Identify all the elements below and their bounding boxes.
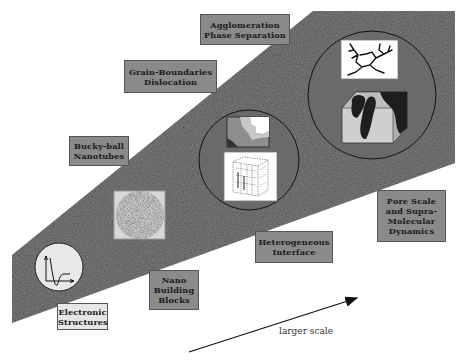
diagram-canvas: Agglomeration Phase Separation Grain-Bou…	[0, 0, 466, 364]
label-line: Dynamics	[378, 226, 445, 236]
label-line: Blocks	[150, 295, 198, 305]
label-line: Bucky-ball	[70, 141, 128, 151]
label-bucky-ball: Bucky-ball Nanotubes	[69, 136, 129, 166]
label-line: Agglomeration	[201, 20, 289, 30]
label-pore-scale: Pore Scale and Supra- Molecular Dynamics	[377, 190, 446, 242]
porous-cube-icon	[342, 92, 407, 143]
label-line: Interface	[256, 247, 332, 257]
label-line: Grain-Boundaries	[125, 67, 216, 77]
label-line: Phase Separation	[201, 30, 289, 40]
dendrite-cluster-icon	[341, 40, 398, 79]
label-heterogeneous-interface: Heterogeneous Interface	[255, 231, 333, 263]
nano-sphere-panel	[114, 191, 165, 239]
electronic-circle	[35, 243, 83, 291]
label-line: Electronic	[58, 307, 107, 317]
label-line: Pore Scale	[378, 196, 445, 206]
label-line: and Supra-	[378, 206, 445, 216]
lattice-cube-icon	[224, 152, 277, 201]
label-line: Nanotubes	[70, 151, 128, 161]
label-agglomeration: Agglomeration Phase Separation	[200, 14, 290, 45]
textured-sphere-icon	[116, 191, 164, 239]
label-line: Structures	[58, 317, 107, 327]
larger-scale-arrow	[189, 298, 357, 352]
label-line: Nano	[150, 275, 198, 285]
label-line: Dislocation	[125, 77, 216, 87]
label-nano-building-blocks: Nano Building Blocks	[149, 270, 199, 310]
label-grain-boundaries: Grain-Boundaries Dislocation	[124, 60, 217, 93]
label-line: Molecular	[378, 216, 445, 226]
pore-scale-circle	[308, 31, 436, 159]
grain-boundary-map-icon	[227, 117, 269, 147]
label-line: Heterogeneous	[256, 237, 332, 247]
label-electronic-structures: Electronic Structures	[57, 303, 108, 330]
arrow-label: larger scale	[279, 326, 333, 336]
label-line: Building	[150, 285, 198, 295]
heterogeneous-circle	[199, 110, 299, 210]
